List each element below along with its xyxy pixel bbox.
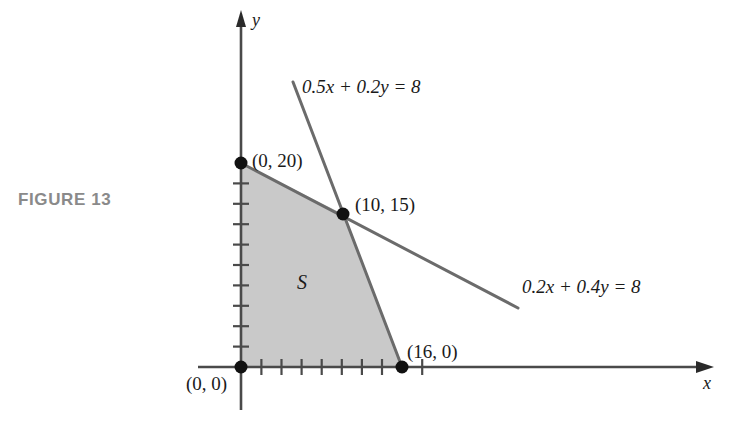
vertex-dot-16-0 (396, 361, 409, 374)
y-axis-label: y (250, 10, 260, 30)
vertex-label-16-0: (16, 0) (407, 341, 458, 363)
vertex-dot-0-20 (235, 157, 248, 170)
vertex-label-10-15: (10, 15) (355, 194, 415, 216)
figure-container: FIGURE 13 (0, 0, 732, 430)
plot-canvas: y x S 0.5x + 0.2y = 8 0.2x + 0.4y = 8 (0… (0, 0, 732, 430)
x-axis-label: x (702, 373, 711, 393)
shallow-constraint-equation-label: 0.2x + 0.4y = 8 (522, 276, 641, 297)
vertex-label-0-20: (0, 20) (252, 150, 303, 172)
vertex-dot-origin (235, 361, 248, 374)
region-label-s: S (297, 271, 307, 293)
steep-constraint-equation-label: 0.5x + 0.2y = 8 (302, 76, 421, 97)
vertex-label-0-0: (0, 0) (186, 373, 227, 395)
x-axis-arrow-icon (696, 361, 714, 373)
vertex-dot-10-15 (337, 208, 350, 221)
y-axis-arrow-icon (236, 10, 246, 27)
